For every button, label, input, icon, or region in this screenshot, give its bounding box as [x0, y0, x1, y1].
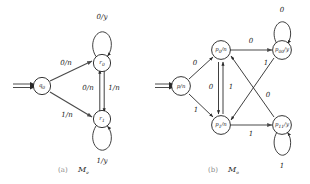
figure-finite-state-machines: 0/n 1/n 0/n 1/n 0/y [0, 0, 310, 184]
transition-label-p11-p0: 0 [266, 91, 271, 99]
state-node-r0[interactable]: r0 [93, 54, 110, 71]
transition-p00-p1: 1 [231, 58, 274, 120]
self-loop-label-r0: 0/y [97, 13, 109, 21]
state-label-p: p/n [177, 83, 186, 90]
state-node-p[interactable]: p/n [172, 77, 191, 96]
caption-machine-a: (a) Me [58, 165, 89, 175]
transition-r1-r0: 0/n [82, 70, 99, 112]
transition-q0-r0: 0/n [50, 59, 92, 81]
transition-label-p-p1: 1 [194, 106, 198, 114]
transition-label-q0-r1: 1/n [61, 111, 73, 119]
transition-label-p1-p0: 1 [229, 83, 233, 91]
transition-p0-p00: 0 [230, 37, 272, 50]
transition-label-r1-r0: 0/n [82, 84, 94, 92]
transition-p1-p0: 1 [223, 62, 233, 114]
transition-label-r0-r1: 1/n [108, 84, 120, 92]
machine-b-group: 0 1 0 1 0 [155, 6, 291, 175]
caption-a-name: Me [77, 165, 89, 175]
transition-q0-r1: 1/n [50, 92, 92, 119]
transition-label-q0-r0: 0/n [60, 59, 72, 67]
state-node-p1[interactable]: p1/n [212, 116, 231, 135]
self-loop-p11: 1 [274, 132, 291, 170]
self-loop-r0: 0/y [93, 13, 112, 57]
transition-r0-r1: 1/n [104, 70, 120, 112]
state-node-p11[interactable]: p11/y [273, 116, 292, 135]
self-loop-label-p00: 0 [280, 6, 285, 14]
caption-b-paren: (b) [208, 166, 218, 174]
self-loop-label-r1: 1/y [97, 157, 109, 165]
self-loop-label-p11: 1 [280, 162, 284, 170]
transition-label-p00-p1: 1 [264, 59, 268, 67]
transition-p-p0: 0 [189, 57, 213, 79]
transition-label-p1-p11: 1 [249, 130, 253, 138]
self-loop-p00: 0 [274, 6, 291, 44]
transition-label-p-p0: 0 [193, 59, 198, 67]
transition-p-p1: 1 [189, 94, 213, 117]
state-node-p00[interactable]: p00/y [273, 41, 292, 60]
caption-a-paren: (a) [58, 166, 68, 174]
self-loop-r1: 1/y [93, 126, 112, 165]
caption-machine-b: (b) Mo [208, 165, 239, 175]
transition-p0-p1: 0 [209, 62, 219, 114]
transition-p1-p11: 1 [230, 125, 272, 138]
automata-figure-svg: 0/n 1/n 0/n 1/n 0/y [0, 0, 310, 184]
transition-label-p0-p00: 0 [249, 37, 254, 45]
caption-b-name: Mo [227, 165, 239, 175]
transition-label-p0-p1: 0 [209, 83, 214, 91]
state-node-p0[interactable]: p0/n [212, 41, 231, 60]
state-node-r1[interactable]: r1 [93, 110, 110, 127]
machine-a-group: 0/n 1/n 0/n 1/n 0/y [13, 13, 120, 175]
state-node-q0[interactable]: q0 [33, 77, 50, 94]
